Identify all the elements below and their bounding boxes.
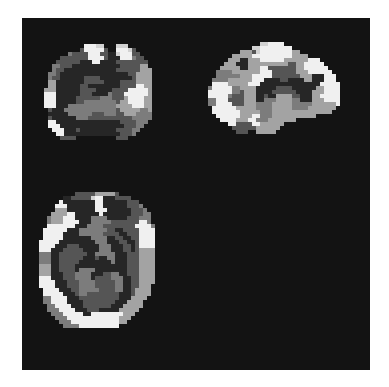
coronal-parcellation-canvas	[40, 40, 156, 144]
sagittal-parcellation-canvas	[200, 38, 344, 138]
sagittal-slice-image	[200, 38, 344, 138]
axial-slice-image	[35, 188, 159, 332]
figure-panel	[22, 18, 370, 370]
coronal-slice-image	[40, 40, 156, 144]
axial-parcellation-canvas	[35, 188, 159, 332]
